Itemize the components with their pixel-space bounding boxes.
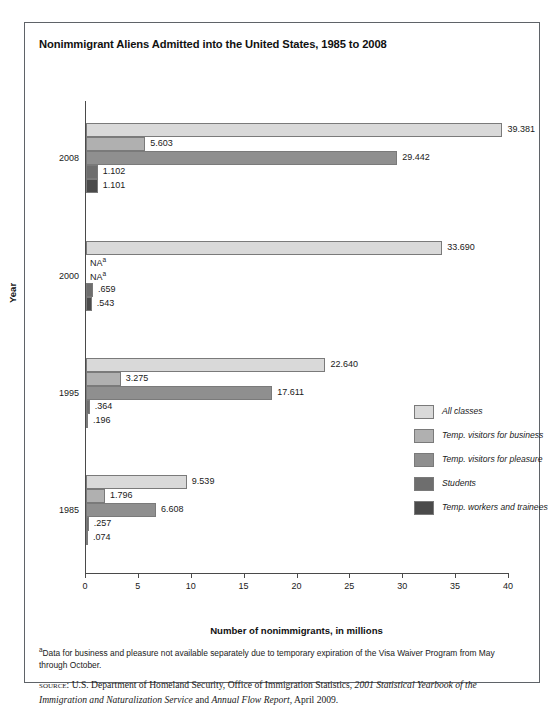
bar-value-label: 33.690 bbox=[447, 242, 475, 252]
x-tick-30 bbox=[402, 573, 403, 578]
bar-1995-temp-visitors-for-pleasure: 17.611 bbox=[86, 386, 509, 400]
bar-rect bbox=[86, 137, 145, 151]
year-label-1985: 1985 bbox=[33, 505, 79, 515]
x-tick-35 bbox=[455, 573, 456, 578]
bar-1995-temp-visitors-for-business: 3.275 bbox=[86, 372, 509, 386]
bar-1995-all-classes: 22.640 bbox=[86, 358, 509, 372]
bar-1985-students: .257 bbox=[86, 517, 509, 531]
bar-rect bbox=[86, 503, 156, 517]
bar-rect bbox=[86, 400, 90, 414]
source-italic-2: Annual Flow Report bbox=[211, 694, 289, 705]
bar-rect bbox=[86, 372, 121, 386]
bar-2000-temp-visitors-for-business: NAa bbox=[86, 255, 509, 269]
bar-value-label: 22.640 bbox=[330, 359, 358, 369]
bar-rect bbox=[86, 517, 89, 531]
bar-value-label: 1.796 bbox=[110, 490, 133, 500]
bar-2000-temp-visitors-for-pleasure: NAa bbox=[86, 269, 509, 283]
bar-rect bbox=[86, 297, 92, 311]
bar-1985-temp-workers-and-trainees: .074 bbox=[86, 531, 509, 545]
x-tick-label-10: 10 bbox=[186, 581, 196, 591]
bar-rect bbox=[86, 475, 187, 489]
source-note: source: U.S. Department of Homeland Secu… bbox=[39, 678, 525, 707]
bar-rect bbox=[86, 531, 88, 545]
bar-rect bbox=[86, 165, 98, 179]
x-tick-label-15: 15 bbox=[239, 581, 249, 591]
bar-rect bbox=[86, 241, 442, 255]
footnote-ref: a bbox=[103, 270, 107, 277]
bar-value-label: 5.603 bbox=[150, 138, 173, 148]
bar-rect bbox=[86, 489, 105, 503]
year-label-1995: 1995 bbox=[33, 388, 79, 398]
bar-value-label: .196 bbox=[93, 415, 111, 425]
x-tick-15 bbox=[244, 573, 245, 578]
x-tick-25 bbox=[349, 573, 350, 578]
bar-2000-students: .659 bbox=[86, 283, 509, 297]
x-tick-5 bbox=[138, 573, 139, 578]
bar-value-label: NAa bbox=[90, 256, 106, 268]
bar-2000-temp-workers-and-trainees: .543 bbox=[86, 297, 509, 311]
bar-value-label: .074 bbox=[93, 532, 111, 542]
bar-rect bbox=[86, 151, 397, 165]
footnote-ref: a bbox=[103, 256, 107, 263]
x-tick-label-5: 5 bbox=[135, 581, 140, 591]
bar-1985-temp-visitors-for-business: 1.796 bbox=[86, 489, 509, 503]
bar-2008-temp-visitors-for-business: 5.603 bbox=[86, 137, 509, 151]
bar-rect bbox=[86, 179, 98, 193]
bar-value-label: 17.611 bbox=[277, 387, 304, 397]
footnote-text: Data for business and pleasure not avail… bbox=[39, 648, 495, 670]
bar-2000-all-classes: 33.690 bbox=[86, 241, 509, 255]
source-label: source: bbox=[39, 680, 69, 690]
bar-value-label: 3.275 bbox=[126, 373, 149, 383]
x-axis-title: Number of nonimmigrants, in millions bbox=[85, 625, 508, 636]
bar-rect bbox=[86, 283, 93, 297]
bar-2008-students: 1.102 bbox=[86, 165, 509, 179]
legend-label: Temp. visitors for pleasure bbox=[442, 454, 542, 464]
y-axis-title: Year bbox=[7, 283, 18, 303]
source-text-1: U.S. Department of Homeland Security, Of… bbox=[69, 679, 354, 690]
bar-value-label: .257 bbox=[94, 518, 112, 528]
legend-label: Students bbox=[442, 478, 476, 488]
x-tick-label-0: 0 bbox=[82, 581, 87, 591]
bar-1995-temp-workers-and-trainees: .196 bbox=[86, 414, 509, 428]
bar-value-label: 29.442 bbox=[402, 152, 430, 162]
legend-swatch-icon bbox=[414, 477, 434, 491]
bar-rect bbox=[86, 358, 325, 372]
bar-2008-temp-workers-and-trainees: 1.101 bbox=[86, 179, 509, 193]
bar-value-label: 6.608 bbox=[161, 504, 184, 514]
x-tick-20 bbox=[297, 573, 298, 578]
bar-value-label: .364 bbox=[95, 401, 113, 411]
x-tick-label-30: 30 bbox=[397, 581, 407, 591]
year-label-2008: 2008 bbox=[33, 153, 79, 163]
bar-rect bbox=[86, 123, 502, 137]
source-text-mid: and bbox=[193, 694, 212, 705]
x-tick-0 bbox=[85, 573, 86, 578]
page-title: Nonimmigrant Aliens Admitted into the Un… bbox=[39, 38, 387, 50]
bar-value-label: .543 bbox=[97, 298, 115, 308]
x-tick-label-35: 35 bbox=[450, 581, 460, 591]
legend-swatch-icon bbox=[414, 405, 434, 419]
footnote: aData for business and pleasure not avai… bbox=[39, 645, 525, 672]
figure-panel: Nonimmigrant Aliens Admitted into the Un… bbox=[24, 22, 540, 683]
bar-value-label: NAa bbox=[90, 270, 106, 282]
x-tick-10 bbox=[191, 573, 192, 578]
source-text-2: , April 2009. bbox=[290, 694, 339, 705]
x-tick-label-40: 40 bbox=[503, 581, 513, 591]
x-tick-40 bbox=[508, 573, 509, 578]
year-label-2000: 2000 bbox=[33, 271, 79, 281]
legend-label: Temp. workers and trainees bbox=[442, 502, 548, 512]
legend-swatch-icon bbox=[414, 501, 434, 515]
bar-2008-all-classes: 39.381 bbox=[86, 123, 509, 137]
legend-label: All classes bbox=[442, 406, 483, 416]
bar-value-label: .659 bbox=[98, 284, 116, 294]
bar-value-label: 9.539 bbox=[192, 476, 215, 486]
legend-label: Temp. visitors for business bbox=[442, 430, 543, 440]
bar-rect bbox=[86, 414, 88, 428]
legend-swatch-icon bbox=[414, 429, 434, 443]
legend-swatch-icon bbox=[414, 453, 434, 467]
x-tick-label-20: 20 bbox=[291, 581, 301, 591]
bar-2008-temp-visitors-for-pleasure: 29.442 bbox=[86, 151, 509, 165]
bar-value-label: 39.381 bbox=[507, 124, 535, 134]
x-tick-label-25: 25 bbox=[344, 581, 354, 591]
bar-value-label: 1.101 bbox=[103, 180, 126, 190]
bar-value-label: 1.102 bbox=[103, 166, 126, 176]
